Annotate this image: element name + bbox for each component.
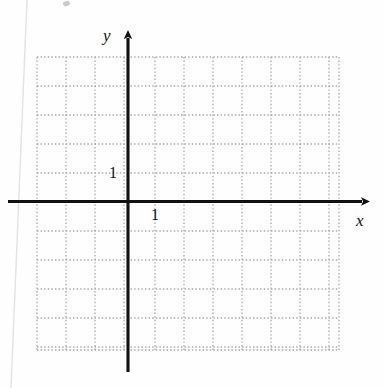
figure-canvas: y x 1 1: [0, 0, 384, 388]
grid-lines-horizontal: [37, 57, 339, 350]
y-axis-tick-label-1: 1: [109, 165, 117, 181]
x-axis-tick-label-1: 1: [151, 207, 159, 223]
coordinate-plane: [0, 0, 384, 388]
x-axis-label: x: [356, 212, 364, 229]
y-axis-label: y: [103, 27, 111, 44]
grid-lines-vertical: [37, 57, 339, 350]
